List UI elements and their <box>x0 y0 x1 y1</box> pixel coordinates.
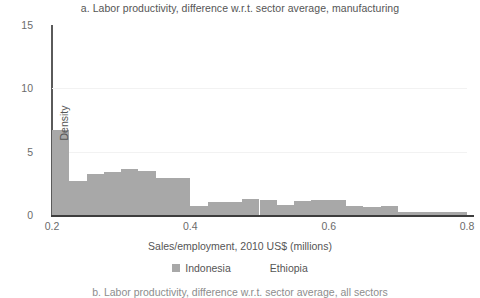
y-axis-label: Density <box>58 53 70 193</box>
histogram-bar <box>208 202 225 215</box>
y-tick-0: 0 <box>0 210 33 221</box>
y-tick-10: 10 <box>0 83 33 94</box>
histogram-bar <box>277 205 294 215</box>
next-panel-title: b. Labor productivity, difference w.r.t.… <box>0 286 480 298</box>
histogram-bar <box>450 212 467 215</box>
legend-swatch-icon <box>172 264 180 272</box>
histogram-bar <box>311 200 328 215</box>
legend-label-ethiopia: Ethiopia <box>270 262 308 274</box>
histogram-bar <box>363 207 380 215</box>
histogram-bar <box>69 181 86 215</box>
histogram-bar <box>190 206 207 215</box>
legend-label-indonesia: Indonesia <box>185 262 231 274</box>
histogram-bar <box>242 199 259 215</box>
histogram-bar <box>138 171 155 215</box>
legend-item-indonesia[interactable]: Indonesia <box>172 262 231 274</box>
histogram-bar <box>381 206 398 215</box>
histogram-bar <box>104 172 121 215</box>
page-title: a. Labor productivity, difference w.r.t.… <box>0 2 480 14</box>
legend: Indonesia Ethiopia <box>0 262 480 274</box>
x-axis-line <box>51 215 474 217</box>
histogram-bar <box>121 169 138 215</box>
histogram-bars <box>52 25 467 215</box>
plot-area: 15 10 5 0 Density <box>52 25 467 215</box>
histogram-bar <box>260 200 277 215</box>
histogram-bar <box>346 206 363 215</box>
histogram-bar <box>156 178 173 215</box>
x-tick-0-2: 0.2 <box>32 220 72 232</box>
legend-item-ethiopia[interactable]: Ethiopia <box>257 262 308 274</box>
histogram-bar <box>294 201 311 215</box>
y-tick-15: 15 <box>0 20 33 31</box>
legend-swatch-icon <box>257 264 265 272</box>
y-tick-5: 5 <box>0 147 33 158</box>
x-tick-0-8: 0.8 <box>447 220 480 232</box>
histogram-bar <box>87 174 104 215</box>
histogram-bar <box>329 200 346 215</box>
histogram-bar <box>398 212 415 215</box>
histogram-bar <box>173 178 190 215</box>
histogram-bar <box>225 202 242 215</box>
x-tick-0-4: 0.4 <box>170 220 210 232</box>
x-tick-0-6: 0.6 <box>309 220 349 232</box>
histogram-bar <box>432 212 449 215</box>
histogram-bar <box>415 212 432 215</box>
x-axis-label: Sales/employment, 2010 US$ (millions) <box>0 240 480 252</box>
